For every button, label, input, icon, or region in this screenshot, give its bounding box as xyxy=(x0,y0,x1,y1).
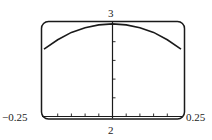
x-min-label: −0.25 xyxy=(2,111,27,123)
x-max-label: 0.25 xyxy=(186,111,205,123)
y-max-label: 3 xyxy=(108,7,114,19)
y-axis xyxy=(113,22,116,119)
plot-area xyxy=(0,0,212,140)
y-min-label: 2 xyxy=(108,124,114,136)
